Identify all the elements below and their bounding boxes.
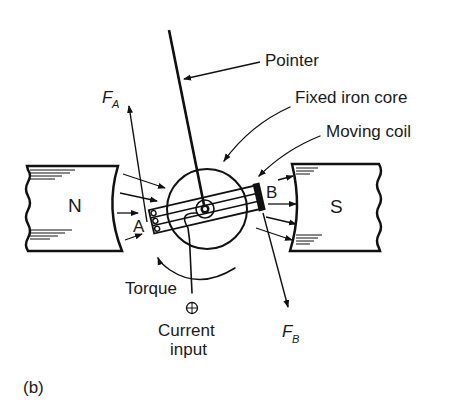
current-input-label-line1: Current <box>158 321 215 340</box>
pivot <box>196 200 214 218</box>
moving-coil-label: Moving coil <box>326 122 411 141</box>
force-a-arrow <box>129 106 147 222</box>
north-pole-label: N <box>68 195 82 216</box>
pointer-label: Pointer <box>265 51 319 70</box>
panel-label: (b) <box>23 378 44 397</box>
current-input-label-line2: input <box>170 340 207 359</box>
pointer-needle <box>169 30 204 205</box>
pointer-callout-arrow <box>184 62 260 79</box>
coil-side-a-label: A <box>133 217 145 236</box>
coil-side-b-label: B <box>266 183 277 202</box>
pmmc-diagram: N S <box>0 0 449 413</box>
south-pole-label: S <box>330 196 343 217</box>
coil-side-b-block <box>253 183 266 212</box>
coil-callout-arrow <box>259 136 320 176</box>
force-a-label: F A <box>102 88 119 110</box>
south-magnet: S <box>290 164 381 251</box>
force-b-label: F B <box>282 322 299 345</box>
svg-text:B: B <box>292 333 299 345</box>
north-magnet: N <box>26 166 122 251</box>
torque-label: Torque <box>125 279 177 298</box>
svg-text:A: A <box>111 98 119 110</box>
torque-arrow <box>158 258 235 280</box>
fixed-iron-core-label: Fixed iron core <box>295 88 407 107</box>
core-callout-arrow <box>224 107 290 161</box>
current-input-terminal <box>187 303 198 314</box>
force-b-arrow <box>263 213 288 307</box>
south-hatching <box>296 168 322 244</box>
